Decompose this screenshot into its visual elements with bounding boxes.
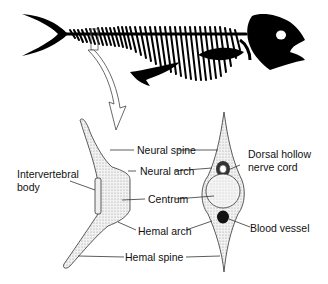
label-dorsal-hollow-line2: nerve cord (248, 161, 298, 173)
label-neural-arch: Neural arch (140, 165, 194, 177)
intervertebral-body-shape (95, 178, 101, 214)
label-dorsal-hollow-line1: Dorsal hollow (248, 148, 311, 160)
label-neural-spine: Neural spine (137, 144, 196, 156)
vertebra-front-view (202, 112, 244, 272)
fish-tail-icon (22, 14, 68, 56)
pectoral-fin-icon (198, 48, 244, 60)
nerve-cord-shape (220, 165, 227, 173)
label-blood-vessel: Blood vessel (250, 222, 310, 234)
vertebra-side-view (63, 119, 130, 268)
label-centrum: Centrum (148, 193, 188, 205)
pelvic-fin-icon (130, 62, 180, 86)
label-intervertebral-line2: body (17, 181, 40, 193)
diagram-canvas (0, 0, 328, 284)
arrow-icon (88, 50, 126, 130)
label-intervertebral-line1: Intervertebral (17, 168, 79, 180)
label-hemal-spine: Hemal spine (125, 251, 183, 263)
blood-vessel-shape (217, 211, 229, 224)
fish-head-icon (240, 14, 305, 70)
label-hemal-arch: Hemal arch (138, 225, 192, 237)
